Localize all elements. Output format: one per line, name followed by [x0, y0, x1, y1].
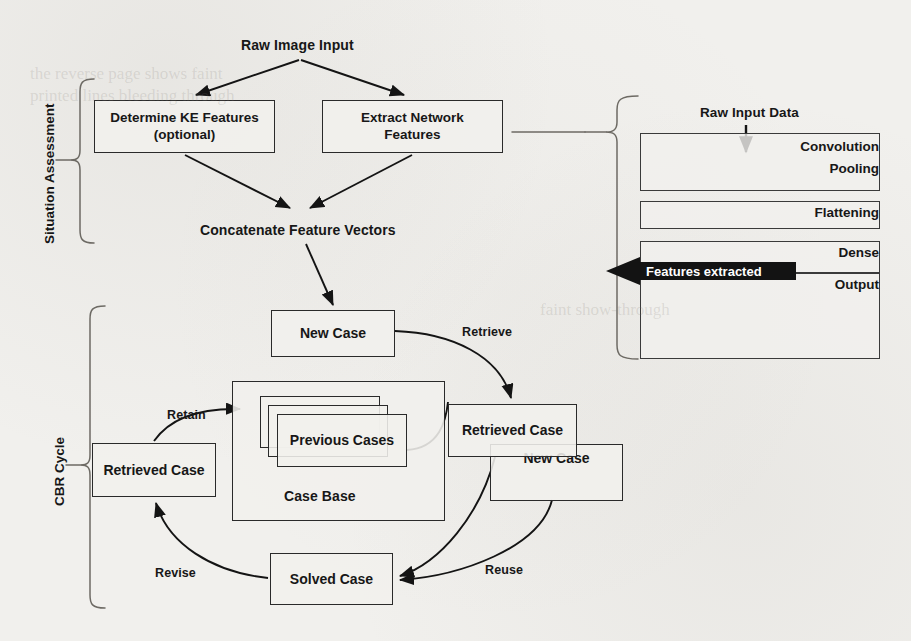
extract-network-features-box[interactable]: Extract Network Features: [322, 100, 503, 153]
dense-label: Dense: [838, 245, 879, 260]
new-case-top-box[interactable]: New Case: [271, 310, 395, 357]
extract-network-features-line1: Extract Network: [361, 110, 464, 126]
section-label-situation-assessment: Situation Assessment: [42, 103, 57, 244]
brace-situation-assessment: [56, 79, 94, 243]
retrieved-case-right-label: Retrieved Case: [462, 422, 563, 439]
raw-input-data-label: Raw Input Data: [700, 105, 799, 121]
edge-boxes-to-concatenate: [185, 155, 412, 208]
previous-cases-box[interactable]: Previous Cases: [277, 414, 407, 467]
solved-case-box[interactable]: Solved Case: [270, 553, 393, 605]
determine-ke-features-box[interactable]: Determine KE Features (optional): [94, 100, 275, 153]
solved-case-label: Solved Case: [290, 571, 373, 588]
retrieved-case-left-label: Retrieved Case: [103, 462, 204, 479]
case-base-label: Case Base: [284, 488, 356, 505]
features-extracted-arrow: Features extracted: [606, 257, 796, 285]
output-label: Output: [835, 277, 879, 292]
determine-ke-features-line1: Determine KE Features: [110, 110, 259, 126]
flattening-label: Flattening: [815, 205, 880, 220]
previous-cases-label: Previous Cases: [290, 432, 394, 449]
brace-cnn-panel: [512, 96, 638, 359]
edge-concatenate-to-new-case: [306, 244, 333, 305]
retrieved-case-left-box[interactable]: Retrieved Case: [92, 443, 216, 497]
section-label-cbr-cycle: CBR Cycle: [52, 437, 67, 506]
determine-ke-features-line2: (optional): [110, 127, 259, 143]
edge-raw-image-to-boxes: [196, 60, 404, 95]
edge-label-retrieve: Retrieve: [462, 325, 512, 340]
retrieved-case-right-box[interactable]: Retrieved Case: [448, 404, 577, 457]
pooling-label: Pooling: [830, 161, 880, 176]
new-case-top-label: New Case: [300, 325, 366, 342]
edge-label-revise: Revise: [155, 566, 196, 581]
features-extracted-label: Features extracted: [646, 257, 762, 285]
edge-label-retain: Retain: [167, 408, 206, 423]
convolution-label: Convolution: [800, 139, 879, 154]
concatenate-feature-vectors-label: Concatenate Feature Vectors: [200, 222, 396, 239]
extract-network-features-line2: Features: [361, 127, 464, 143]
figure-canvas: Situation Assessment CBR Cycle Raw Image…: [0, 0, 911, 641]
edge-label-reuse: Reuse: [485, 563, 523, 578]
raw-image-input-label: Raw Image Input: [241, 37, 354, 54]
